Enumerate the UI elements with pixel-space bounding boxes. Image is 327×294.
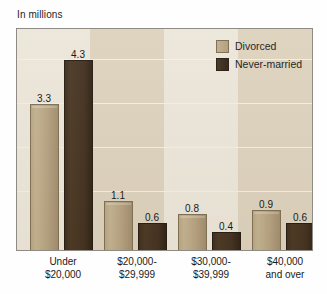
category-label-line2: $29,999 bbox=[95, 269, 179, 282]
legend-swatch-divorced-icon bbox=[216, 40, 229, 53]
category-label-20000-29999: $20,000- $29,999 bbox=[95, 256, 179, 281]
category-label-line1: Under bbox=[21, 256, 105, 269]
category-label-line2: $39,999 bbox=[169, 269, 253, 282]
gridline-2 bbox=[17, 147, 312, 148]
legend-item-never-married[interactable]: Never-married bbox=[216, 56, 302, 72]
category-label-under-20000: Under $20,000 bbox=[21, 256, 105, 281]
category-label-line2: and over bbox=[243, 269, 327, 282]
bar-never-married-30000-39999[interactable] bbox=[212, 232, 241, 250]
category-label-line2: $20,000 bbox=[21, 269, 105, 282]
value-label-divorced-40000-and-over: 0.9 bbox=[251, 199, 281, 210]
bar-divorced-20000-29999[interactable] bbox=[104, 201, 133, 250]
bar-divorced-40000-and-over[interactable] bbox=[252, 210, 281, 250]
legend-label-divorced: Divorced bbox=[235, 40, 276, 52]
value-label-divorced-under-20000: 3.3 bbox=[29, 93, 59, 104]
category-label-line1: $40,000 bbox=[243, 256, 327, 269]
bar-divorced-under-20000[interactable] bbox=[30, 104, 59, 250]
chart-container: In millions Divorced bbox=[0, 0, 327, 294]
category-label-line1: $30,000- bbox=[169, 256, 253, 269]
gridline-3 bbox=[17, 103, 312, 104]
category-label-40000-and-over: $40,000 and over bbox=[243, 256, 327, 281]
bar-never-married-20000-29999[interactable] bbox=[138, 223, 167, 250]
value-label-divorced-30000-39999: 0.8 bbox=[177, 203, 207, 214]
value-label-divorced-20000-29999: 1.1 bbox=[103, 190, 133, 201]
legend-swatch-never-married-icon bbox=[216, 58, 229, 71]
legend-label-never-married: Never-married bbox=[235, 58, 302, 70]
chart-title: In millions bbox=[17, 9, 63, 20]
value-label-never-married-40000-and-over: 0.6 bbox=[285, 212, 315, 223]
legend-item-divorced[interactable]: Divorced bbox=[216, 38, 302, 54]
gridline-1 bbox=[17, 191, 312, 192]
category-label-30000-39999: $30,000- $39,999 bbox=[169, 256, 253, 281]
category-label-line1: $20,000- bbox=[95, 256, 179, 269]
bar-never-married-under-20000[interactable] bbox=[64, 60, 93, 250]
value-label-never-married-20000-29999: 0.6 bbox=[137, 212, 167, 223]
value-label-never-married-under-20000: 4.3 bbox=[63, 49, 93, 60]
value-label-never-married-30000-39999: 0.4 bbox=[211, 221, 241, 232]
bar-never-married-40000-and-over[interactable] bbox=[286, 223, 313, 250]
chart-legend: Divorced Never-married bbox=[216, 38, 302, 74]
bar-divorced-30000-39999[interactable] bbox=[178, 214, 207, 250]
